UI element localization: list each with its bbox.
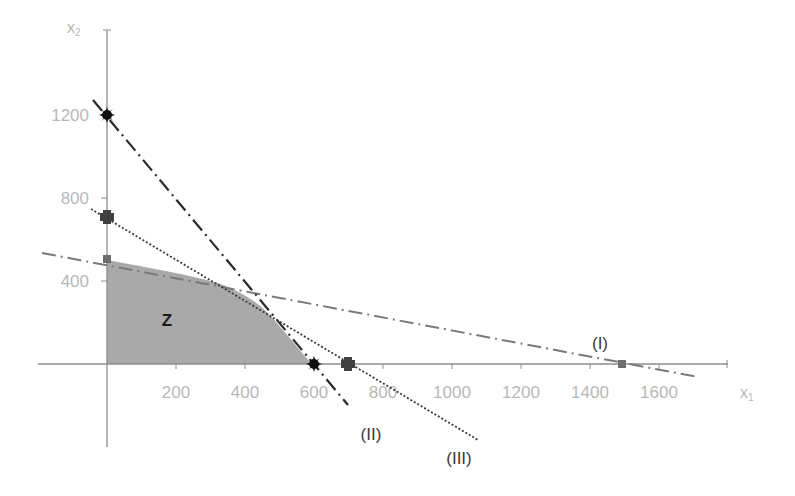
x-tick-label: 200 — [162, 383, 190, 402]
x-tick-label: 1000 — [433, 383, 471, 402]
square-marker — [103, 255, 111, 263]
y-tick-label: 400 — [61, 272, 89, 291]
x-tick-label: 800 — [369, 383, 397, 402]
y-axis-title: x2 — [67, 19, 81, 38]
x-tick-label: 600 — [300, 383, 328, 402]
y-tick-label: 1200 — [51, 106, 89, 125]
x-tick-label: 1600 — [640, 383, 678, 402]
label-line-I: (I) — [592, 334, 608, 353]
star-marker — [99, 107, 115, 123]
linear-program-chart: 200 400 600 800 1000 1200 1400 1600 400 … — [0, 0, 795, 496]
x-tick-label: 400 — [231, 383, 259, 402]
feasible-region-shape — [107, 260, 312, 364]
y-tick-labels: 400 800 1200 — [51, 106, 89, 291]
x-axis-title: x1 — [740, 384, 754, 403]
y-ticks — [101, 30, 111, 281]
square-marker — [618, 360, 626, 368]
region-label-z: Z — [162, 311, 172, 330]
x-tick-labels: 200 400 600 800 1000 1200 1400 1600 — [162, 383, 678, 402]
x-tick-label: 1200 — [502, 383, 540, 402]
feasible-region — [107, 260, 312, 364]
star-marker — [306, 356, 322, 372]
y-tick-label: 800 — [61, 189, 89, 208]
label-line-III: (III) — [446, 449, 472, 468]
x-tick-label: 1400 — [571, 383, 609, 402]
label-line-II: (II) — [361, 425, 382, 444]
